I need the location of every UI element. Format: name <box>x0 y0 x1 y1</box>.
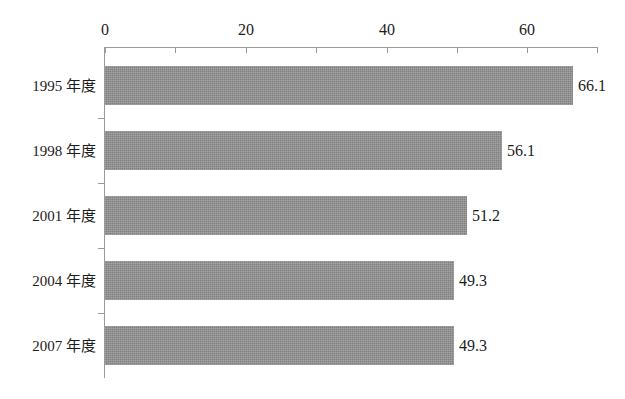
bar-2007 <box>105 326 454 365</box>
value-label-2004: 49.3 <box>459 271 487 291</box>
bar-chart: 0 20 40 60 1995 年度 66.1 1998 年度 56.1 200… <box>0 0 625 399</box>
y-tick-2 <box>98 183 104 184</box>
category-label-2007: 2007 年度 <box>0 336 96 356</box>
x-tick-label-40: 40 <box>379 20 395 40</box>
y-tick-3 <box>98 248 104 249</box>
category-label-2004: 2004 年度 <box>0 271 96 291</box>
x-tick-70 <box>597 47 598 53</box>
x-tick-30 <box>316 47 317 53</box>
x-tick-label-60: 60 <box>519 20 535 40</box>
y-tick-1 <box>98 118 104 119</box>
bar-1998 <box>105 131 502 170</box>
x-axis-line <box>104 47 598 48</box>
x-tick-60 <box>527 47 528 53</box>
category-label-1995: 1995 年度 <box>0 76 96 96</box>
bar-2004 <box>105 261 454 300</box>
bar-2001 <box>105 196 467 235</box>
x-tick-label-0: 0 <box>101 20 109 40</box>
value-label-2007: 49.3 <box>459 336 487 356</box>
x-tick-10 <box>175 47 176 53</box>
chart-page: 0 20 40 60 1995 年度 66.1 1998 年度 56.1 200… <box>0 0 625 399</box>
x-tick-50 <box>457 47 458 53</box>
cut-off-caption <box>135 386 485 394</box>
x-tick-20 <box>246 47 247 53</box>
value-label-2001: 51.2 <box>472 206 500 226</box>
value-label-1995: 66.1 <box>578 76 606 96</box>
category-label-2001: 2001 年度 <box>0 206 96 226</box>
x-tick-0 <box>105 47 106 53</box>
y-tick-4 <box>98 313 104 314</box>
category-label-1998: 1998 年度 <box>0 141 96 161</box>
bar-1995 <box>105 66 573 105</box>
x-tick-label-20: 20 <box>238 20 254 40</box>
value-label-1998: 56.1 <box>507 141 535 161</box>
x-tick-40 <box>387 47 388 53</box>
